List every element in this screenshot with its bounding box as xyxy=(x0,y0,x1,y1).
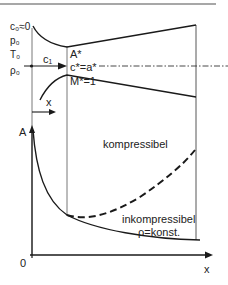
throat-velocity-label: c*=a* xyxy=(70,62,97,73)
stagnation-pressure-label: p₀ xyxy=(10,36,20,46)
stagnation-velocity-label: c₀≈0 xyxy=(10,22,30,32)
a-axis-arrow-icon xyxy=(29,125,35,133)
compressible-curve-label: kompressibel xyxy=(103,139,168,150)
x-axis-label: x xyxy=(204,264,210,275)
inflow-arrow-head-icon xyxy=(58,63,67,70)
stagnation-point-dot xyxy=(30,64,33,67)
incompressible-curve-label: inkompressibel xyxy=(122,214,195,225)
stagnation-temperature-label: T₀ xyxy=(10,50,20,60)
area-curve-compressible xyxy=(67,150,195,217)
nozzle-lower-wall xyxy=(40,75,196,100)
x-axis-arrow-icon xyxy=(205,252,213,259)
a-axis-label: A xyxy=(19,127,26,138)
nozzle-upper-wall xyxy=(33,25,196,47)
x-arrow-label: x xyxy=(46,97,52,108)
x-direction-arrow-head-icon xyxy=(49,109,56,115)
origin-label: 0 xyxy=(20,258,26,269)
inflow-velocity-label: c₁ xyxy=(43,54,52,65)
throat-mach-label: M*=1 xyxy=(70,76,96,87)
constant-density-label: ρ=konst. xyxy=(138,227,180,238)
throat-area-label: A* xyxy=(70,49,82,60)
stagnation-density-label: ρ₀ xyxy=(10,66,20,76)
